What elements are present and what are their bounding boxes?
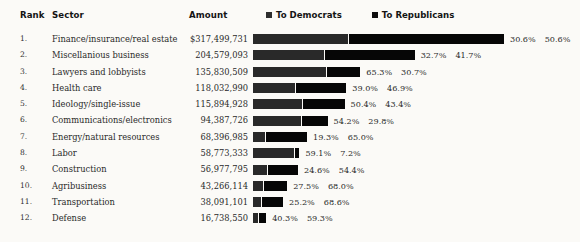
cell-sector: Defense: [52, 210, 86, 226]
cell-sector: Miscellanious business: [52, 47, 149, 63]
bar-segment-democrats: [253, 34, 348, 44]
bar-value-labels: 30.6%50.6%: [510, 34, 570, 44]
table-row: 10.Agribusiness43,266,11427.5%68.0%: [0, 178, 580, 194]
bar-segment-democrats: [253, 181, 263, 191]
bar-value-labels: 32.7%41.7%: [421, 50, 481, 60]
legend-swatch-republicans-icon: [372, 12, 378, 18]
cell-amount: 135,830,509: [195, 64, 248, 80]
stacked-bar: 27.5%68.0%: [253, 181, 354, 191]
stacked-bar: 40.3%59.3%: [253, 213, 333, 223]
stacked-bar: 54.2%29.8%: [253, 116, 394, 126]
cell-sector: Energy/natural resources: [52, 129, 160, 145]
cell-sector: Agribusiness: [52, 178, 106, 194]
bar-segment-republicans: [324, 50, 415, 60]
cell-sector: Transportation: [52, 194, 115, 210]
bar-segment-democrats: [253, 148, 294, 158]
cell-amount: 38,091,101: [200, 194, 248, 210]
column-header-rank: Rank: [20, 10, 45, 20]
stacked-bar: 32.7%41.7%: [253, 50, 481, 60]
bar-value-labels: 54.2%29.8%: [334, 116, 394, 126]
table-row: 2.Miscellanious business204,579,09332.7%…: [0, 47, 580, 63]
cell-sector: Lawyers and lobbyists: [52, 64, 146, 80]
bar-label-republicans-pct: 50.6%: [545, 34, 571, 44]
table-body: 1.Finance/insurance/real estate$317,499,…: [0, 31, 580, 227]
legend-label-democrats: To Democrats: [276, 10, 342, 20]
bar-label-republicans-pct: 68.0%: [328, 181, 354, 191]
table-row: 6.Communications/electronics94,387,72654…: [0, 112, 580, 128]
bar-segment-democrats: [253, 116, 301, 126]
legend-label-republicans: To Republicans: [382, 10, 455, 20]
table-row: 3.Lawyers and lobbyists135,830,50965.3%3…: [0, 64, 580, 80]
bar-segment-republicans: [261, 197, 283, 207]
bar-value-labels: 19.3%65.0%: [313, 132, 373, 142]
bar-segment-republicans: [267, 165, 298, 175]
cell-amount: 68,396,985: [200, 129, 248, 145]
bar-label-democrats-pct: 65.3%: [366, 67, 392, 77]
cell-amount: $317,499,731: [190, 31, 248, 47]
cell-rank: 10.: [20, 178, 32, 194]
bar-label-democrats-pct: 54.2%: [334, 116, 360, 126]
bar-segment-republicans: [263, 181, 287, 191]
cell-amount: 118,032,990: [195, 80, 248, 96]
bar-label-democrats-pct: 39.0%: [352, 83, 378, 93]
bar-segment-republicans: [301, 116, 327, 126]
bar-label-republicans-pct: 46.9%: [387, 83, 413, 93]
column-header-sector: Sector: [52, 10, 84, 20]
cell-sector: Health care: [52, 80, 102, 96]
bar-label-democrats-pct: 50.4%: [351, 99, 377, 109]
bar-segment-democrats: [253, 132, 265, 142]
cell-sector: Communications/electronics: [52, 112, 172, 128]
stacked-bar: 24.6%54.4%: [253, 165, 364, 175]
bar-label-democrats-pct: 59.1%: [305, 148, 331, 158]
stacked-bar: 25.2%68.6%: [253, 197, 350, 207]
legend-item-republicans: To Republicans: [372, 10, 455, 20]
cell-sector: Finance/insurance/real estate: [52, 31, 177, 47]
stacked-bar: 39.0%46.9%: [253, 83, 413, 93]
table-row: 5.Ideology/single-issue115,894,92850.4%4…: [0, 96, 580, 112]
bar-value-labels: 65.3%30.7%: [366, 67, 426, 77]
bar-label-republicans-pct: 43.4%: [385, 99, 411, 109]
stacked-bar: 19.3%65.0%: [253, 132, 374, 142]
table-row: 12.Defense16,738,55040.3%59.3%: [0, 210, 580, 226]
bar-value-labels: 50.4%43.4%: [351, 99, 411, 109]
legend-item-democrats: To Democrats: [266, 10, 342, 20]
bar-segment-republicans: [258, 213, 266, 223]
cell-rank: 9.: [20, 161, 27, 177]
stacked-bar: 30.6%50.6%: [253, 34, 570, 44]
cell-rank: 11.: [20, 194, 32, 210]
bar-segment-republicans: [326, 67, 360, 77]
bar-segment-democrats: [253, 50, 324, 60]
cell-amount: 16,738,550: [200, 210, 248, 226]
bar-value-labels: 59.1%7.2%: [305, 148, 360, 158]
cell-sector: Labor: [52, 145, 77, 161]
table-row: 9.Construction56,977,79524.6%54.4%: [0, 161, 580, 177]
cell-rank: 4.: [20, 80, 27, 96]
stacked-bar: 65.3%30.7%: [253, 67, 427, 77]
bar-segment-republicans: [265, 132, 307, 142]
column-header-amount: Amount: [189, 10, 227, 20]
bar-label-republicans-pct: 54.4%: [339, 165, 365, 175]
bar-label-republicans-pct: 29.8%: [368, 116, 394, 126]
cell-rank: 12.: [20, 210, 32, 226]
bar-label-democrats-pct: 27.5%: [293, 181, 319, 191]
bar-label-democrats-pct: 19.3%: [313, 132, 339, 142]
cell-amount: 56,977,795: [200, 161, 248, 177]
cell-rank: 5.: [20, 96, 27, 112]
bar-value-labels: 27.5%68.0%: [293, 181, 353, 191]
stacked-bar: 50.4%43.4%: [253, 99, 411, 109]
bar-segment-republicans: [294, 148, 299, 158]
bar-label-democrats-pct: 32.7%: [421, 50, 447, 60]
bar-label-republicans-pct: 68.6%: [324, 197, 350, 207]
bar-label-republicans-pct: 59.3%: [307, 213, 333, 223]
bar-label-republicans-pct: 30.7%: [401, 67, 427, 77]
bar-segment-democrats: [253, 165, 267, 175]
cell-rank: 3.: [20, 64, 27, 80]
table-header: Rank Sector Amount To Democrats To Repub…: [0, 8, 580, 24]
table-row: 11.Transportation38,091,10125.2%68.6%: [0, 194, 580, 210]
bar-value-labels: 40.3%59.3%: [272, 213, 332, 223]
bar-segment-republicans: [348, 34, 504, 44]
legend-swatch-democrats-icon: [266, 12, 272, 18]
cell-rank: 6.: [20, 112, 27, 128]
bar-label-republicans-pct: 65.0%: [348, 132, 374, 142]
chart-legend: To Democrats To Republicans: [266, 10, 454, 20]
